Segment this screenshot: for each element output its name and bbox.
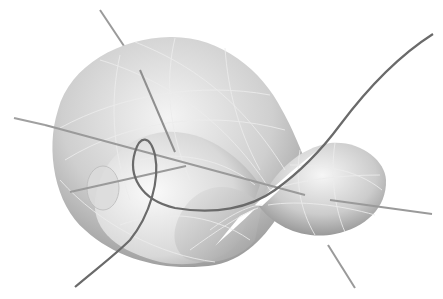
- axis-2-back: [14, 118, 45, 125]
- surface-figure: [0, 0, 443, 299]
- axis-3-front: [328, 245, 355, 288]
- surface-svg: [0, 0, 443, 299]
